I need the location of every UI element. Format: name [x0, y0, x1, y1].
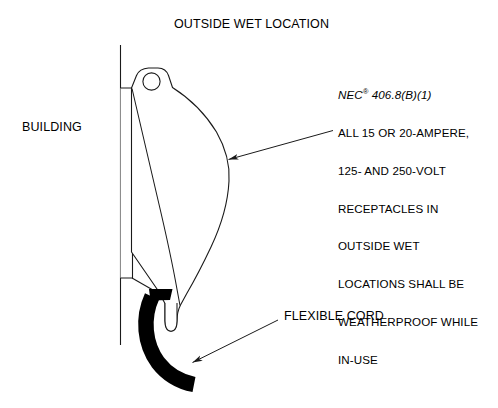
flexible-cord-leader-line: [193, 320, 279, 363]
nec-callout-leader-line: [229, 131, 334, 160]
nec-callout-line: 125- AND 250-VOLT: [338, 165, 490, 178]
nec-callout-line: IN-USE: [338, 354, 490, 367]
cover-bottom-lip: [165, 303, 177, 331]
diagram-canvas: OUTSIDE WET LOCATION BUILDING FLEXIBLE C…: [0, 0, 498, 408]
flexible-cord-entry: [149, 289, 173, 301]
nec-callout-line: WEATHERPROOF WHILE: [338, 316, 490, 329]
nec-callout-line: LOCATIONS SHALL BE: [338, 278, 490, 291]
receptacle-mounting-plate: [121, 88, 133, 278]
weatherproof-in-use-cover: [132, 68, 230, 331]
nec-reference-prefix: NEC: [338, 88, 363, 101]
diagram-title: OUTSIDE WET LOCATION: [174, 17, 329, 32]
nec-callout-line: ALL 15 OR 20-AMPERE,: [338, 127, 490, 140]
building-label: BUILDING: [22, 120, 82, 135]
nec-reference-code: 406.8(B)(1): [368, 88, 431, 101]
nec-callout-line: OUTSIDE WET: [338, 240, 490, 253]
nec-code-callout: NEC® 406.8(B)(1) ALL 15 OR 20-AMPERE, 12…: [338, 64, 490, 391]
cover-hinge-pivot-icon: [143, 73, 160, 90]
nec-callout-line: RECEPTACLES IN: [338, 203, 490, 216]
nec-reference-line: NEC® 406.8(B)(1): [338, 89, 490, 102]
